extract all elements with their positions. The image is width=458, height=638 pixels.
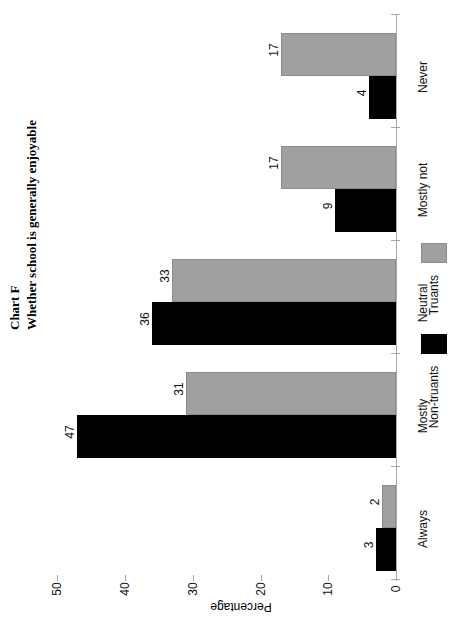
bar-label-never-nontruants: 4 <box>355 78 369 108</box>
bar-label-mostly-truants: 31 <box>172 374 186 404</box>
category-tick-1 <box>391 127 400 128</box>
bar-label-mostlynot-truants: 17 <box>267 148 281 178</box>
bar-label-neutral-nontruants: 36 <box>138 304 152 334</box>
category-tick-0 <box>391 14 400 15</box>
category-tick-2 <box>391 240 400 241</box>
category-label-always: Always <box>416 499 430 559</box>
legend-swatch-nontruants <box>421 334 447 354</box>
bar-label-mostly-nontruants: 47 <box>63 417 77 447</box>
bar-label-always-nontruants: 3 <box>362 530 376 560</box>
bar-label-never-truants: 17 <box>267 35 281 65</box>
legend-label-nontruants: Non-truants <box>427 362 441 432</box>
bar-label-neutral-truants: 33 <box>158 261 172 291</box>
bar-mostlynot-truants <box>281 146 396 189</box>
bar-neutral-truants <box>172 259 396 302</box>
category-tick-4 <box>391 466 400 467</box>
bar-always-truants <box>382 485 396 528</box>
category-label-mostly-not: Mostly not <box>416 160 430 220</box>
bar-always-nontruants <box>376 528 396 571</box>
bar-mostlynot-nontruants <box>335 189 396 232</box>
bar-chart: 50 40 30 20 10 0 Percentage 17 4 17 9 33… <box>0 0 458 638</box>
bar-label-always-truants: 2 <box>368 487 382 517</box>
value-tick-label-40: 40 <box>118 574 132 604</box>
legend-label-truants: Truants <box>427 265 441 325</box>
bar-mostly-truants <box>186 372 396 415</box>
bar-label-mostlynot-nontruants: 9 <box>321 191 335 221</box>
category-tick-5 <box>391 579 400 580</box>
value-axis-title: Percentage <box>196 600 286 614</box>
category-label-never: Never <box>416 47 430 107</box>
legend-swatch-truants <box>421 243 447 263</box>
bar-never-truants <box>281 33 396 76</box>
value-tick-label-10: 10 <box>321 574 335 604</box>
bar-never-nontruants <box>369 76 396 119</box>
category-tick-3 <box>391 353 400 354</box>
value-tick-label-50: 50 <box>50 574 64 604</box>
bar-mostly-nontruants <box>77 415 396 458</box>
bar-neutral-nontruants <box>152 302 396 345</box>
category-axis-line <box>396 14 397 580</box>
